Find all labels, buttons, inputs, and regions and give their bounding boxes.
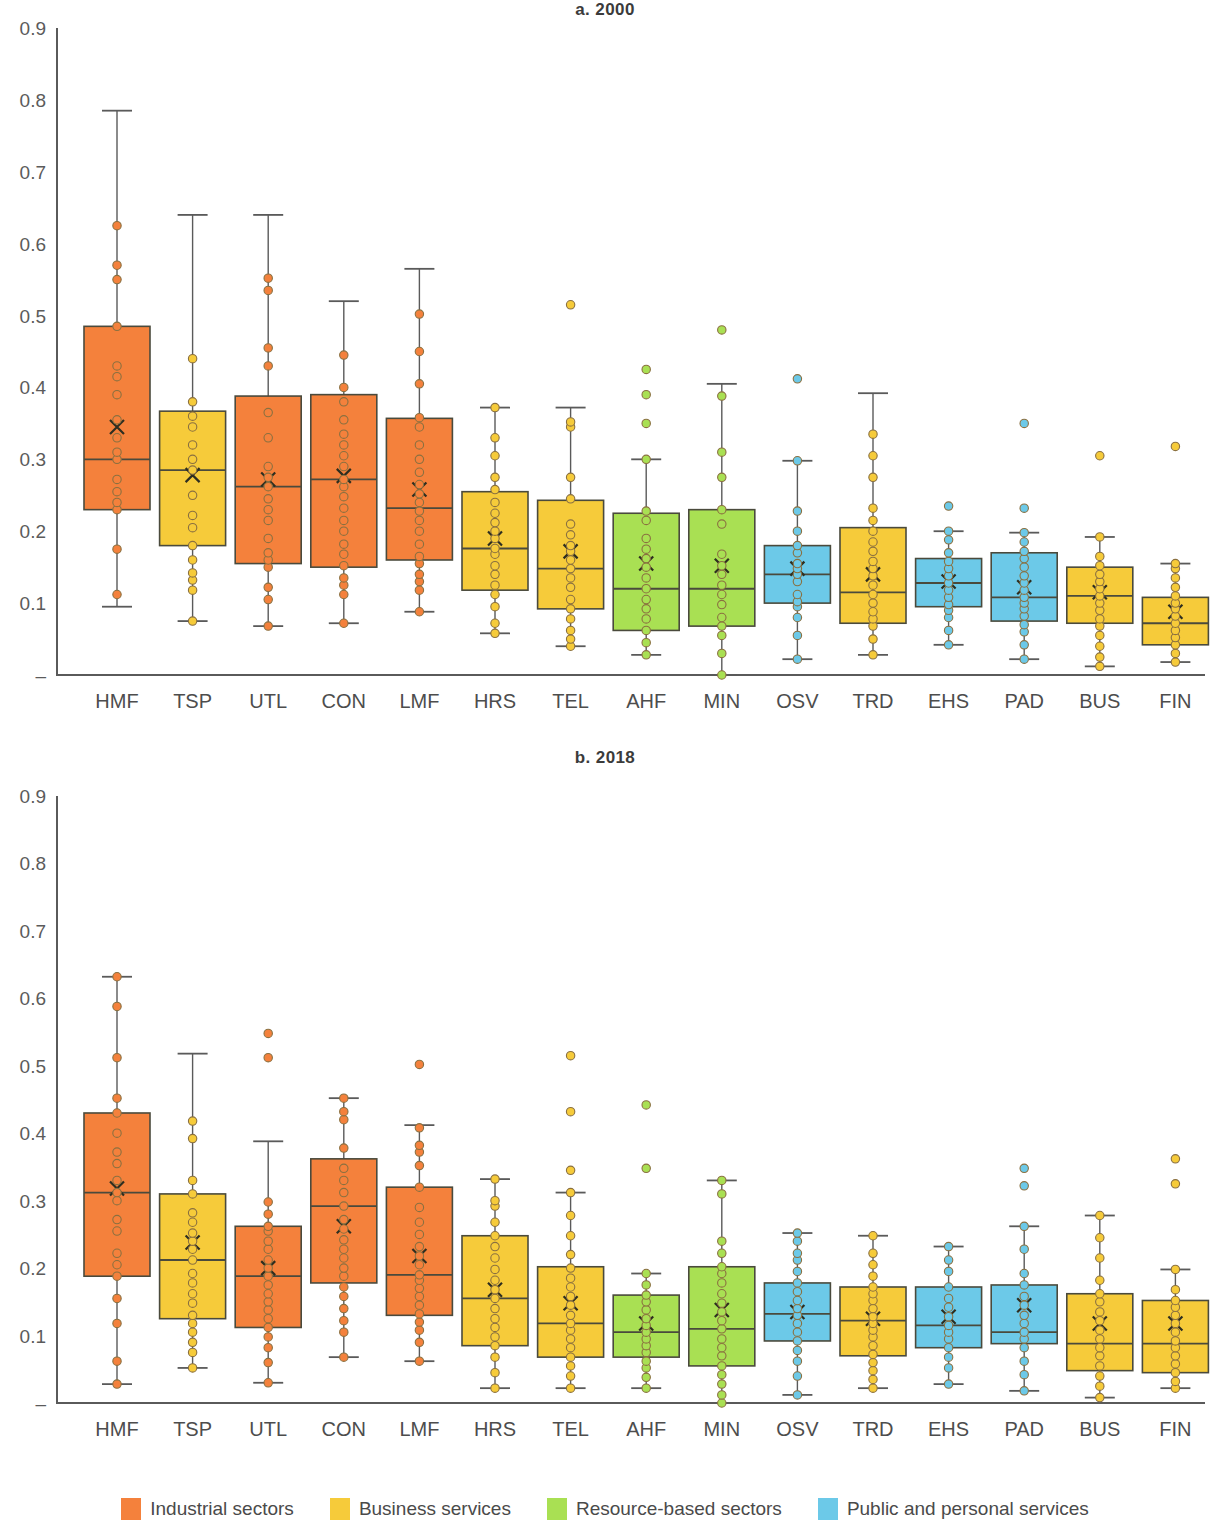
y-axis-tick-label: 0.7 [20,921,46,942]
legend-swatch-industrial [121,1498,141,1520]
boxplot-a-svg: 0.90.80.70.60.50.40.30.20.1–HMFTSPUTLCON… [0,0,1210,740]
x-axis-tick-label: CON [322,690,366,712]
box-plot-series [916,1242,982,1388]
y-axis-tick-label: 0.7 [20,162,46,183]
x-axis-tick-label: EHS [928,690,969,712]
x-axis-tick-label: TRD [852,690,893,712]
x-axis-tick-label: PAD [1004,1418,1044,1440]
y-axis-tick-label: 0.2 [20,521,46,542]
box-plot-series [84,111,150,607]
x-axis-tick-label: LMF [399,1418,439,1440]
box-plot-series [311,301,377,627]
y-axis-tick-label: 0.4 [20,377,47,398]
x-axis-tick-label: HMF [95,1418,138,1440]
x-axis-tick-label: CON [322,1418,366,1440]
x-axis-tick-label: TSP [173,690,212,712]
panel-2000: a. 2000 0.90.80.70.60.50.40.30.20.1–HMFT… [0,0,1210,740]
box-plot-series [160,1054,226,1372]
box-plot-series [764,375,830,664]
box-plot-series [689,326,755,679]
legend-item-business: Business services [330,1498,511,1520]
x-axis-tick-label: LMF [399,690,439,712]
y-axis-tick-label: 0.9 [20,18,46,39]
box-plot-series [916,502,982,649]
legend-swatch-business [330,1498,350,1520]
box-plot-series [991,419,1057,663]
box-plot-series [538,301,604,651]
x-axis-tick-label: UTL [249,1418,287,1440]
box-plot-series [462,403,528,637]
x-axis-tick-label: HRS [474,690,516,712]
x-axis-tick-label: TRD [852,1418,893,1440]
box-plot-series [991,1164,1057,1395]
box-plot-series [235,215,301,630]
y-axis-tick-label: – [35,1393,46,1414]
panel-2018: b. 2018 0.90.80.70.60.50.40.30.20.1–HMFT… [0,748,1210,1448]
x-axis-tick-label: BUS [1079,1418,1120,1440]
box-plot-series [689,1176,755,1407]
x-axis-tick-label: OSV [776,1418,819,1440]
x-axis-tick-label: EHS [928,1418,969,1440]
y-axis-tick-label: 0.8 [20,90,46,111]
boxplot-a: 0.90.80.70.60.50.40.30.20.1–HMFTSPUTLCON… [0,0,1210,740]
y-axis-tick-label: 0.6 [20,234,46,255]
boxplot-b-svg: 0.90.80.70.60.50.40.30.20.1–HMFTSPUTLCON… [0,748,1210,1448]
y-axis-tick-label: 0.3 [20,1191,46,1212]
box-plot-series [311,1094,377,1361]
x-axis-tick-label: MIN [703,690,740,712]
y-axis-tick-label: 0.8 [20,853,46,874]
x-axis-tick-label: OSV [776,690,819,712]
y-axis-tick-label: 0.6 [20,988,46,1009]
box-plot-series [1142,442,1208,666]
legend-item-public: Public and personal services [818,1498,1089,1520]
box-plot-series [84,973,150,1389]
legend-item-industrial: Industrial sectors [121,1498,294,1520]
box-plot-series [613,1101,679,1393]
legend: Industrial sectors Business services Res… [0,1498,1210,1520]
box-plot-series [538,1051,604,1392]
y-axis-tick-label: 0.9 [20,786,46,807]
legend-swatch-resource [547,1498,567,1520]
y-axis-tick-label: 0.4 [20,1123,47,1144]
box-plot-series [386,269,452,616]
y-axis-tick-label: 0.3 [20,449,46,470]
x-axis-tick-label: BUS [1079,690,1120,712]
box-plot-series [840,1232,906,1393]
boxplot-b: 0.90.80.70.60.50.40.30.20.1–HMFTSPUTLCON… [0,748,1210,1448]
y-axis-tick-label: 0.5 [20,1056,46,1077]
box-plot-series [1067,452,1133,671]
y-axis-tick-label: – [35,665,46,686]
legend-label-resource: Resource-based sectors [576,1498,782,1520]
legend-item-resource: Resource-based sectors [547,1498,782,1520]
legend-label-business: Business services [359,1498,511,1520]
y-axis-tick-label: 0.5 [20,306,46,327]
x-axis-tick-label: FIN [1159,1418,1191,1440]
box-plot-series [235,1029,301,1387]
legend-label-public: Public and personal services [847,1498,1089,1520]
x-axis-tick-label: FIN [1159,690,1191,712]
y-axis-tick-label: 0.1 [20,593,46,614]
box-plot-series [160,215,226,625]
x-axis-tick-label: MIN [703,1418,740,1440]
x-axis-tick-label: HMF [95,690,138,712]
legend-label-industrial: Industrial sectors [150,1498,294,1520]
box-plot-series [840,393,906,659]
box-plot-series [764,1229,830,1399]
x-axis-tick-label: AHF [626,690,666,712]
box-plot-series [1142,1155,1208,1393]
figure-container: a. 2000 0.90.80.70.60.50.40.30.20.1–HMFT… [0,0,1210,1528]
x-axis-tick-label: TEL [552,1418,589,1440]
x-axis-tick-label: TSP [173,1418,212,1440]
box-plot-series [462,1175,528,1392]
y-axis-tick-label: 0.2 [20,1258,46,1279]
box-plot-series [1067,1211,1133,1402]
x-axis-tick-label: AHF [626,1418,666,1440]
y-axis-tick-label: 0.1 [20,1326,46,1347]
x-axis-tick-label: UTL [249,690,287,712]
x-axis-tick-label: HRS [474,1418,516,1440]
box-plot-series [386,1060,452,1365]
x-axis-tick-label: PAD [1004,690,1044,712]
x-axis-tick-label: TEL [552,690,589,712]
legend-swatch-public [818,1498,838,1520]
box-plot-series [613,365,679,659]
